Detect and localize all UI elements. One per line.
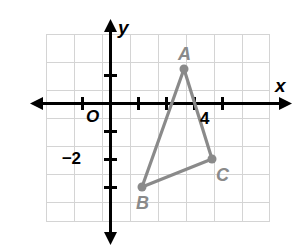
- origin-label: O: [86, 108, 99, 125]
- vertex-label-b: B: [136, 194, 149, 212]
- y-axis-label: y: [118, 18, 129, 37]
- vertex-point-a: [180, 65, 189, 74]
- triangle-outline: [142, 69, 212, 187]
- y-tick-label-minus-2: −2: [62, 150, 80, 167]
- coordinate-plane-figure: y x O 4 −2 A B C: [0, 0, 303, 249]
- x-axis-label: x: [275, 76, 286, 95]
- vertex-label-c: C: [216, 166, 229, 184]
- axis-ticks: [83, 76, 223, 188]
- x-axis: [30, 97, 292, 110]
- x-tick-label-4: 4: [200, 110, 209, 127]
- coordinate-plane-svg: [0, 0, 303, 249]
- x-axis-right-arrow-icon: [279, 97, 292, 110]
- grid-lines: [46, 34, 270, 222]
- y-axis-up-arrow-icon: [104, 19, 117, 32]
- triangle-abc: [138, 65, 217, 192]
- vertex-point-b: [138, 183, 147, 192]
- x-axis-left-arrow-icon: [30, 97, 43, 110]
- vertex-point-c: [208, 155, 217, 164]
- vertex-label-a: A: [178, 45, 191, 63]
- y-axis-down-arrow-icon: [104, 232, 117, 245]
